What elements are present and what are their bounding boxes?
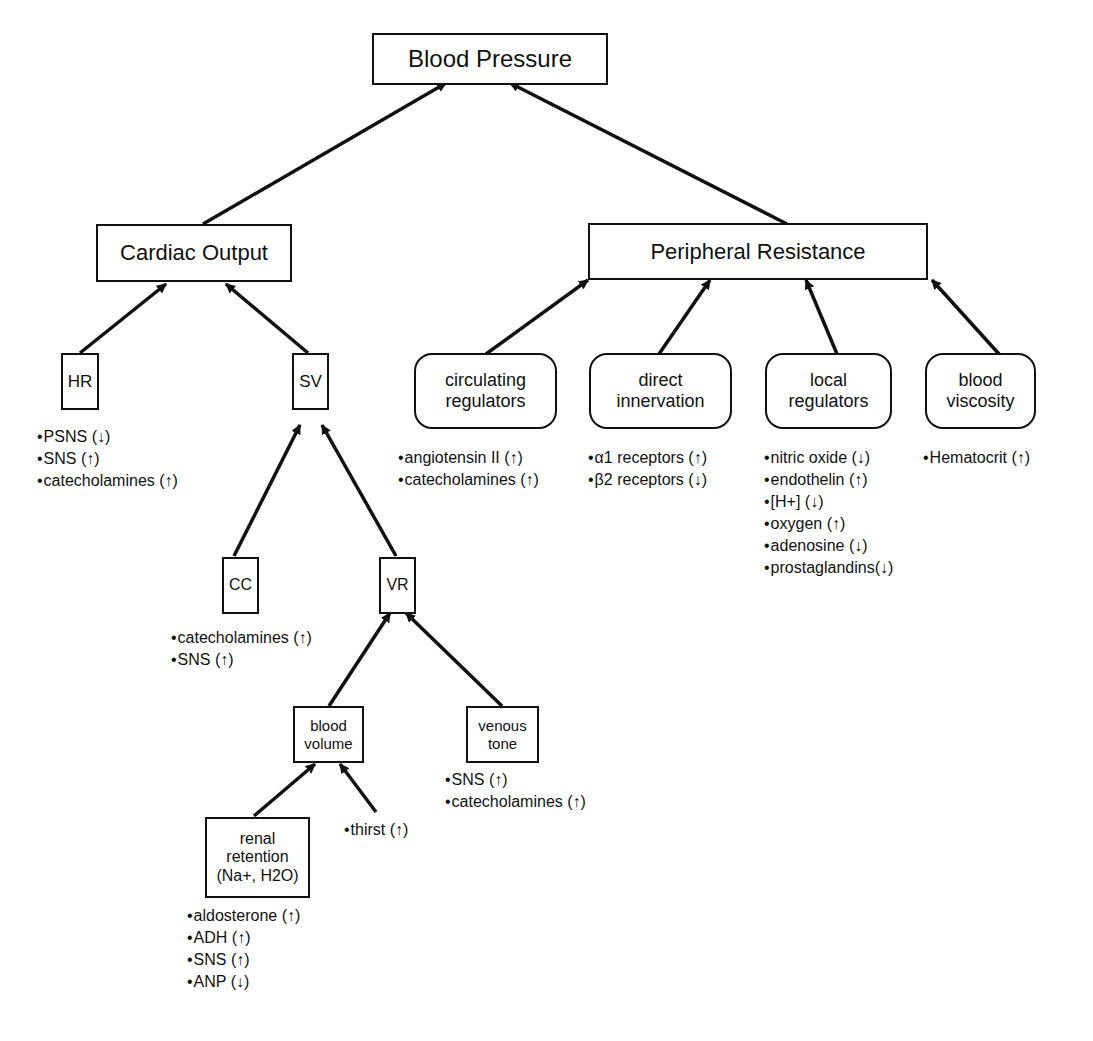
node-cc: CC — [222, 557, 259, 614]
node-direct-innervation: direct innervation — [589, 353, 732, 429]
node-blood-viscosity: blood viscosity — [925, 353, 1036, 429]
bullets-blood-viscosity: Hematocrit (↑) — [923, 447, 1030, 469]
bullets-thirst: thirst (↑) — [344, 819, 408, 841]
bullets-venous-tone: SNS (↑)catecholamines (↑) — [445, 769, 586, 813]
node-local-regulators: local regulators — [765, 353, 892, 429]
bullets-cc: catecholamines (↑)SNS (↑) — [171, 627, 312, 671]
node-venous-tone: venous tone — [466, 706, 539, 763]
node-circulating-regulators: circulating regulators — [414, 353, 557, 429]
node-cardiac-output: Cardiac Output — [96, 224, 292, 282]
node-hr: HR — [61, 353, 99, 410]
node-renal-retention: renal retention (Na+, H2O) — [205, 817, 310, 898]
bullets-local-regulators: nitric oxide (↓)endothelin (↑)[H+] (↓)ox… — [764, 447, 893, 579]
connector-arrows — [0, 0, 1093, 1041]
bullets-direct-innervation: α1 receptors (↑)β2 receptors (↓) — [588, 447, 707, 491]
node-blood-volume: blood volume — [293, 706, 364, 763]
node-peripheral-resistance: Peripheral Resistance — [588, 223, 928, 280]
bullets-circulating-regulators: angiotensin II (↑)catecholamines (↑) — [398, 447, 539, 491]
node-blood-pressure: Blood Pressure — [372, 33, 608, 85]
bullets-renal-retention: aldosterone (↑)ADH (↑)SNS (↑)ANP (↓) — [187, 905, 300, 993]
bullets-hr: PSNS (↓)SNS (↑)catecholamines (↑) — [37, 426, 178, 492]
node-vr: VR — [379, 557, 416, 614]
node-sv: SV — [292, 353, 329, 410]
